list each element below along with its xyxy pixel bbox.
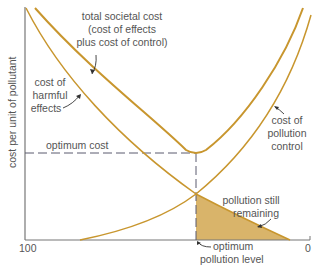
y-axis-title: cost per unit of pollutant — [6, 56, 18, 168]
total-cost-label-line3: plus cost of control) — [76, 36, 167, 48]
remaining-label-line2: remaining — [233, 207, 279, 219]
optimum-level-label-line1: optimum — [213, 240, 254, 252]
total-cost-curve — [35, 8, 303, 153]
control-label-line1: cost of — [272, 114, 303, 126]
x-tick-0: 0 — [305, 242, 311, 254]
optimum-cost-label: optimum cost — [46, 139, 109, 151]
harmful-label-line1: cost of — [35, 76, 66, 88]
total-cost-label-line2: (cost of effects — [88, 23, 156, 35]
harmful-label-line3: effects — [31, 102, 62, 114]
x-tick-100: 100 — [19, 242, 37, 254]
pollution-cost-chart: total societal cost (cost of effects plu… — [0, 0, 318, 274]
harmful-label-line2: harmful — [32, 89, 67, 101]
optimum-level-label-line2: pollution level — [200, 253, 264, 265]
remaining-label-line1: pollution still — [222, 194, 279, 206]
total-cost-label-line1: total societal cost — [82, 10, 163, 22]
control-label-line2: pollution — [267, 127, 306, 139]
control-label-line3: control — [271, 140, 303, 152]
